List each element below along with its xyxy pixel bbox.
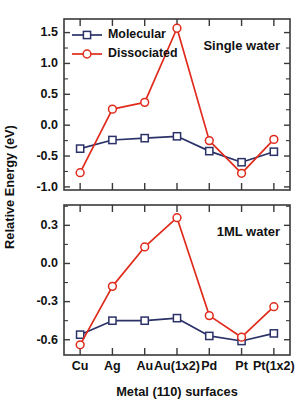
data-point-dissociated[interactable] xyxy=(109,282,117,290)
data-point-molecular[interactable] xyxy=(109,317,116,324)
panel-1ml-water: 0.30.0-0.3-0.6CuAgAuAu(1x2)PdPtPt(1x2)1M… xyxy=(36,205,294,373)
data-point-molecular[interactable] xyxy=(173,315,180,322)
data-point-dissociated[interactable] xyxy=(76,341,84,349)
legend-marker-molecular xyxy=(83,31,90,38)
data-point-dissociated[interactable] xyxy=(141,243,149,251)
legend-label-molecular: Molecular xyxy=(108,27,166,41)
y-tick-label: -0.3 xyxy=(36,294,58,308)
data-point-molecular[interactable] xyxy=(173,133,180,140)
x-tick-label: Pt(1x2) xyxy=(253,359,295,373)
panel-single-water: 1.51.00.50.0-0.5-1.0Single water xyxy=(36,19,290,194)
legend-marker-dissociated xyxy=(83,50,91,58)
data-point-dissociated[interactable] xyxy=(270,135,278,143)
x-axis-title: Metal (110) surfaces xyxy=(116,384,238,399)
y-tick-label: 1.0 xyxy=(41,56,58,70)
data-point-dissociated[interactable] xyxy=(270,303,278,311)
x-tick-label: Cu xyxy=(72,359,89,373)
data-point-molecular[interactable] xyxy=(141,135,148,142)
x-tick-label: Ag xyxy=(104,359,121,373)
data-point-dissociated[interactable] xyxy=(173,24,181,32)
y-axis-title: Relative Energy (eV) xyxy=(2,125,17,249)
y-tick-label: 0.0 xyxy=(41,118,58,132)
figure-container: 1.51.00.50.0-0.5-1.0Single water0.30.0-0… xyxy=(0,0,308,418)
y-tick-label: -0.6 xyxy=(36,333,58,347)
data-point-molecular[interactable] xyxy=(238,159,245,166)
x-tick-label: Au xyxy=(136,359,153,373)
data-point-dissociated[interactable] xyxy=(141,98,149,106)
data-point-molecular[interactable] xyxy=(141,317,148,324)
data-point-molecular[interactable] xyxy=(109,136,116,143)
data-point-dissociated[interactable] xyxy=(238,333,246,341)
x-tick-label: Pd xyxy=(201,359,217,373)
data-point-molecular[interactable] xyxy=(206,148,213,155)
y-tick-label: 1.5 xyxy=(41,25,58,39)
y-tick-label: 0.5 xyxy=(41,87,58,101)
y-tick-label: -1.0 xyxy=(36,180,58,194)
y-tick-label: 0.0 xyxy=(41,256,58,270)
x-tick-label: Au(1x2) xyxy=(154,359,200,373)
panel-annotation: Single water xyxy=(203,38,280,53)
relative-energy-figure: 1.51.00.50.0-0.5-1.0Single water0.30.0-0… xyxy=(0,0,308,418)
panel-annotation: 1ML water xyxy=(217,224,280,239)
data-point-molecular[interactable] xyxy=(270,330,277,337)
data-point-dissociated[interactable] xyxy=(205,312,213,320)
data-point-molecular[interactable] xyxy=(206,332,213,339)
data-point-dissociated[interactable] xyxy=(173,214,181,222)
data-point-dissociated[interactable] xyxy=(76,169,84,177)
data-point-dissociated[interactable] xyxy=(238,169,246,177)
y-tick-label: 0.3 xyxy=(41,218,58,232)
data-point-molecular[interactable] xyxy=(77,331,84,338)
data-point-dissociated[interactable] xyxy=(109,105,117,113)
y-tick-label: -0.5 xyxy=(36,149,58,163)
x-tick-label: Pt xyxy=(235,359,248,373)
data-point-molecular[interactable] xyxy=(270,148,277,155)
data-point-molecular[interactable] xyxy=(77,145,84,152)
legend-label-dissociated: Dissociated xyxy=(108,46,178,60)
data-point-dissociated[interactable] xyxy=(205,137,213,145)
legend: MolecularDissociated xyxy=(72,27,178,60)
